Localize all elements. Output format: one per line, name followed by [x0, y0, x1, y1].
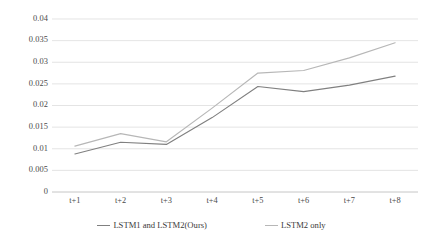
y-tick-label: 0.04	[14, 15, 48, 23]
y-tick-label: 0.02	[14, 101, 48, 109]
y-tick-label: 0.03	[14, 58, 48, 66]
series-line-1	[75, 76, 395, 154]
legend-label: LSTM2 only	[281, 220, 326, 230]
y-tick-label: 0.025	[14, 80, 48, 88]
x-axis-tick-labels: t+1t+2t+3t+4t+5t+6t+7t+8	[52, 196, 418, 212]
x-tick-label: t+6	[284, 196, 324, 206]
line-chart: 00.0050.010.0150.020.0250.030.0350.04 t+…	[0, 0, 423, 244]
x-tick-label: t+3	[146, 196, 186, 206]
x-tick-label: t+7	[329, 196, 369, 206]
legend-entry-1[interactable]: LSTM1 and LSTM2(Ours)	[97, 220, 207, 230]
x-tick-label: t+8	[375, 196, 415, 206]
legend-entry-2[interactable]: LSTM2 only	[265, 220, 326, 230]
y-axis-tick-labels: 00.0050.010.0150.020.0250.030.0350.04	[8, 0, 48, 244]
y-tick-label: 0.035	[14, 36, 48, 44]
y-tick-label: 0.005	[14, 166, 48, 174]
x-tick-label: t+1	[55, 196, 95, 206]
y-tick-label: 0.015	[14, 123, 48, 131]
series-line-2	[75, 43, 395, 146]
legend-line-swatch-icon	[97, 225, 110, 226]
x-tick-label: t+4	[192, 196, 232, 206]
x-tick-label: t+5	[238, 196, 278, 206]
x-tick-label: t+2	[101, 196, 141, 206]
y-tick-label: 0.01	[14, 145, 48, 153]
legend-line-swatch-icon	[265, 225, 278, 226]
series-lines	[75, 43, 395, 154]
gridlines	[52, 19, 418, 192]
chart-legend: LSTM1 and LSTM2(Ours)LSTM2 only	[0, 216, 423, 234]
y-tick-label: 0	[14, 188, 48, 196]
legend-label: LSTM1 and LSTM2(Ours)	[113, 220, 207, 230]
